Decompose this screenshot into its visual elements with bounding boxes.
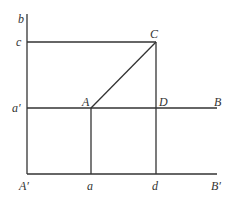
label-a: a: [87, 179, 93, 193]
projection-diagram: b c C a′ A D B A′ a d B′: [0, 0, 237, 199]
label-B: B: [214, 95, 222, 109]
label-c: c: [16, 35, 22, 49]
label-A: A: [81, 95, 90, 109]
label-d: d: [152, 179, 159, 193]
label-b: b: [18, 12, 24, 26]
label-A-prime: A′: [18, 179, 29, 193]
label-a-prime: a′: [12, 101, 21, 115]
label-B-prime: B′: [211, 179, 221, 193]
label-C: C: [150, 27, 159, 41]
line-A-C: [91, 42, 156, 108]
label-D: D: [158, 95, 168, 109]
